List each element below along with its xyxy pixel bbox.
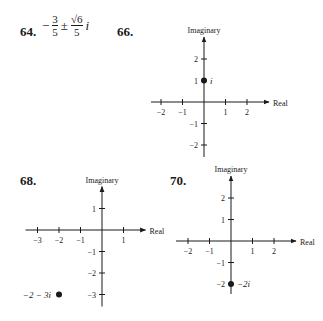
x-tick-label: 1: [122, 236, 126, 245]
real-axis-label: Real: [273, 99, 288, 108]
imaginary-axis-label: Imaginary: [215, 165, 248, 174]
imaginary-axis-label: Imaginary: [86, 176, 119, 185]
argand-diagram-66: RealImaginary−2−11221−1−2i: [151, 26, 288, 157]
y-tick-label: 2: [221, 194, 225, 203]
real-axis-label: Real: [300, 238, 315, 247]
data-point: [56, 292, 62, 298]
point-label: −2 − 3i: [23, 290, 52, 300]
x-tick-label: 1: [224, 108, 228, 117]
x-tick-label: −2: [184, 247, 193, 256]
y-tick-label: −1: [87, 248, 96, 257]
y-tick-label: −2: [87, 269, 96, 278]
argand-diagram-68: RealImaginary−3−2−111−1−2−3−2 − 3i: [23, 176, 165, 307]
data-point: [228, 281, 234, 287]
y-tick-label: −1: [216, 259, 225, 268]
x-tick-label: −1: [76, 236, 85, 245]
y-tick-label: 1: [194, 77, 198, 86]
x-tick-label: 2: [245, 108, 249, 117]
y-tick-label: −2: [216, 280, 225, 289]
charts-canvas: RealImaginary−2−11221−1−2i RealImaginary…: [0, 0, 323, 321]
argand-diagram-70: RealImaginary−2−11221−1−2−2i: [176, 165, 315, 294]
x-tick-label: −1: [205, 247, 214, 256]
x-tick-label: −2: [55, 236, 64, 245]
x-tick-label: −1: [178, 108, 187, 117]
y-tick-label: −3: [87, 291, 96, 300]
point-label: −2i: [237, 279, 251, 289]
x-tick-label: 2: [272, 247, 276, 256]
x-tick-label: −3: [33, 236, 42, 245]
x-tick-label: −2: [157, 108, 166, 117]
point-label: i: [210, 76, 213, 86]
data-point: [201, 78, 207, 84]
imaginary-axis-label: Imaginary: [188, 26, 221, 35]
y-tick-label: −1: [189, 120, 198, 129]
y-tick-label: 1: [221, 216, 225, 225]
real-axis-label: Real: [150, 227, 165, 236]
x-tick-label: 1: [251, 247, 255, 256]
y-tick-label: 1: [92, 205, 96, 214]
y-tick-label: −2: [189, 141, 198, 150]
y-tick-label: 2: [194, 55, 198, 64]
